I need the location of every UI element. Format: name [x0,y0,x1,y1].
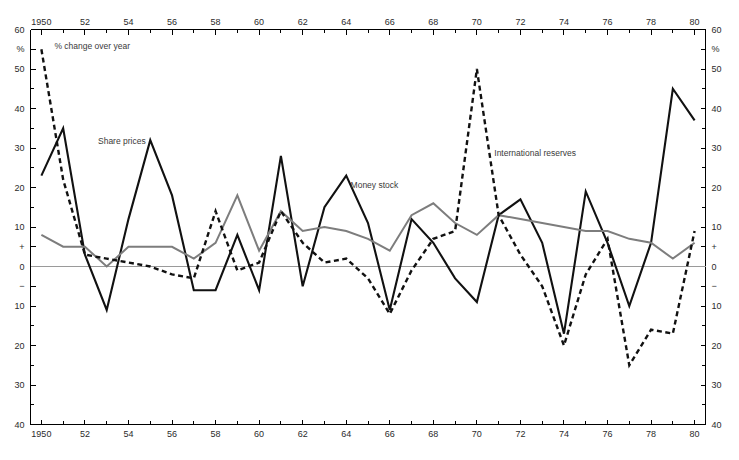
x-axis-label-top: 70 [472,17,482,27]
x-axis-label-bottom: 68 [428,429,438,439]
x-axis-label-bottom: 62 [298,429,308,439]
y-axis-label-right: 20 [712,341,722,351]
y-axis-label-right: 10 [712,222,722,232]
x-axis-label-bottom: 64 [341,429,351,439]
y-axis-label-left: 30 [14,380,24,390]
x-axis-label-bottom: 1950 [31,429,51,439]
x-axis-label-bottom: 58 [211,429,221,439]
labels-layer: 1950195052525454565658586060626264646666… [14,17,721,439]
x-axis-label-top: 62 [298,17,308,27]
x-axis-label-bottom: 80 [690,429,700,439]
series-line-share-prices [41,89,694,334]
x-axis-label-bottom: 74 [559,429,569,439]
x-axis-label-top: 52 [80,17,90,27]
x-axis-label-top: 76 [603,17,613,27]
y-axis-label-left: 10 [14,301,24,311]
y-axis-label-left: 50 [14,64,24,74]
y-axis-label-right: % [712,44,720,54]
x-axis-label-top: 66 [385,17,395,27]
x-axis-label-bottom: 76 [603,429,613,439]
y-axis-label-left: 60 [14,25,24,35]
x-axis-label-bottom: 52 [80,429,90,439]
y-axis-label-left: 40 [14,420,24,430]
x-axis-label-top: 72 [515,17,525,27]
series-label-international-reserves: International reserves [494,148,576,158]
units-note: % change over year [54,41,130,51]
series-label-money-stock: Money stock [351,180,399,190]
x-axis-label-bottom: 56 [167,429,177,439]
y-axis-label-right: 60 [712,25,722,35]
x-axis-label-bottom: 66 [385,429,395,439]
y-axis-label-left: 10 [14,222,24,232]
y-axis-label-left: + [19,242,24,252]
y-axis-label-right: 30 [712,143,722,153]
x-axis-label-top: 80 [690,17,700,27]
x-axis-label-bottom: 72 [515,429,525,439]
y-axis-label-left: 0 [19,262,24,272]
y-axis-label-right: + [712,242,717,252]
y-axis-label-right: 50 [712,64,722,74]
y-axis-label-left: − [19,281,24,291]
x-axis-label-top: 54 [123,17,133,27]
y-axis-label-right: 20 [712,183,722,193]
x-axis-label-top: 58 [211,17,221,27]
y-axis-label-right: 40 [712,104,722,114]
x-axis-label-top: 64 [341,17,351,27]
y-axis-label-left: % [16,44,24,54]
y-axis-label-right: 40 [712,420,722,430]
y-axis-label-right: 10 [712,301,722,311]
x-axis-label-bottom: 70 [472,429,482,439]
x-axis-label-top: 78 [646,17,656,27]
x-axis-label-top: 68 [428,17,438,27]
y-axis-label-right: − [712,281,717,291]
chart-container: 1950195052525454565658586060626264646666… [0,0,739,460]
x-axis-label-top: 60 [254,17,264,27]
line-chart: 1950195052525454565658586060626264646666… [0,0,739,460]
x-axis-label-bottom: 60 [254,429,264,439]
y-axis-label-right: 0 [712,262,717,272]
y-axis-label-left: 20 [14,341,24,351]
y-axis-label-right: 30 [712,380,722,390]
series-layer [41,49,694,365]
series-line-international-reserves [41,49,694,365]
y-axis-label-left: 20 [14,183,24,193]
series-line-money-stock [41,195,694,266]
y-axis-label-left: 40 [14,104,24,114]
x-axis-label-top: 74 [559,17,569,27]
series-label-share-prices: Share prices [98,136,146,146]
x-axis-label-bottom: 78 [646,429,656,439]
x-axis-label-top: 56 [167,17,177,27]
x-axis-label-top: 1950 [31,17,51,27]
x-axis-label-bottom: 54 [123,429,133,439]
y-axis-label-left: 30 [14,143,24,153]
